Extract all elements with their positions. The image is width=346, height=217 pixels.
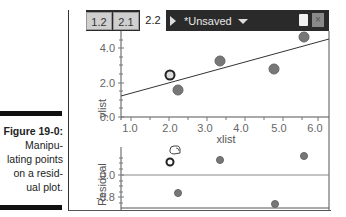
- residual-plot[interactable]: 0.0 -0.8 Residual: [96, 146, 329, 210]
- data-point[interactable]: [269, 64, 279, 74]
- y-axis-label: ylist: [96, 99, 108, 118]
- x-tick-label: 3.0: [197, 122, 212, 134]
- x-tick-label: 2.0: [162, 122, 177, 134]
- grab-hand-icon: [170, 146, 180, 154]
- residual-point[interactable]: [272, 201, 279, 208]
- y-tick-label: 2.0: [100, 77, 115, 89]
- data-point[interactable]: [173, 85, 183, 95]
- regression-line[interactable]: [121, 39, 329, 96]
- residual-point[interactable]: [217, 157, 224, 164]
- x-tick-label: 5.0: [271, 122, 286, 134]
- data-point[interactable]: [299, 32, 309, 42]
- x-ticks: [131, 117, 318, 121]
- x-tick-label: 1.0: [122, 122, 137, 134]
- data-point[interactable]: [215, 56, 225, 66]
- x-tick-label: 4.0: [233, 122, 248, 134]
- plots: 4.0 2.0 0.0 ylist 1.0 2.0 3.0 4.0 5.0 6.…: [0, 0, 346, 217]
- x-tick-label: 6.0: [307, 122, 322, 134]
- residual-point[interactable]: [175, 190, 182, 197]
- selected-data-point[interactable]: [166, 71, 175, 80]
- residual-point[interactable]: [301, 153, 308, 160]
- residual-axis-label: Residual: [96, 163, 108, 206]
- scatter-plot[interactable]: 4.0 2.0 0.0 ylist 1.0 2.0 3.0 4.0 5.0 6.…: [96, 31, 329, 210]
- selected-residual-point[interactable]: [167, 159, 174, 166]
- y-tick-label: 4.0: [100, 42, 115, 54]
- x-axis-label: xlist: [217, 133, 236, 145]
